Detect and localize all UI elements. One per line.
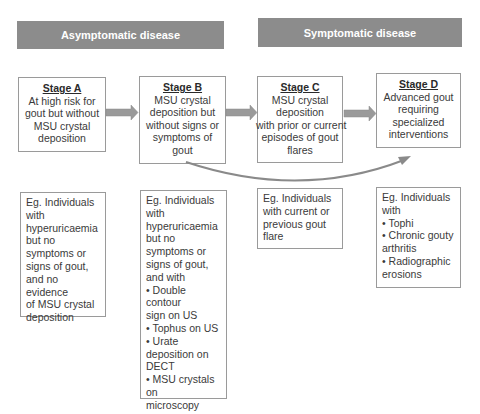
example-line: Eg. Individuals: [146, 194, 222, 207]
example-box-stage-c: Eg. Individuals with current or previous…: [257, 188, 343, 249]
example-box-stage-a: Eg. Individuals with hyperuricaemia but …: [20, 192, 106, 317]
example-line: Eg. Individuals: [263, 192, 338, 205]
example-line: Eg. Individuals: [26, 196, 101, 209]
arrow-right-icon: [344, 106, 376, 121]
example-line: • Tophi: [382, 217, 456, 230]
example-line: • Double contour: [146, 284, 222, 310]
example-line: deposition: [26, 311, 101, 324]
example-line: erosions: [382, 268, 456, 281]
example-line: hyperuricaemia: [26, 222, 101, 235]
example-line: symptoms or: [146, 245, 222, 258]
example-line: and with: [146, 271, 222, 284]
example-line: sign on US: [146, 309, 222, 322]
example-line: signs of gout,: [26, 260, 101, 273]
example-box-stage-d: Eg. Individuals with • Tophi • Chronic g…: [376, 187, 461, 288]
example-line: previous gout: [263, 218, 338, 231]
example-line: • MSU crystals on: [146, 373, 222, 399]
example-line: arthritis: [382, 242, 456, 255]
example-line: of MSU crystal: [26, 298, 101, 311]
curved-arrow-icon: [186, 156, 411, 181]
example-line: signs of gout,: [146, 258, 222, 271]
example-line: with: [26, 209, 101, 222]
example-line: but no: [146, 232, 222, 245]
example-line: with: [146, 207, 222, 220]
example-box-stage-b: Eg. Individuals with hyperuricaemia but …: [140, 190, 227, 399]
example-line: • Radiographic: [382, 255, 456, 268]
example-line: symptoms or: [26, 247, 101, 260]
example-line: microscopy: [146, 399, 222, 412]
example-line: but no: [26, 234, 101, 247]
example-line: and no evidence: [26, 273, 101, 299]
example-line: Eg. Individuals: [382, 191, 456, 204]
example-line: flare: [263, 230, 338, 243]
example-line: • Chronic gouty: [382, 229, 456, 242]
example-line: DECT: [146, 360, 222, 373]
example-line: hyperuricaemia: [146, 220, 222, 233]
example-line: with current or: [263, 205, 338, 218]
arrow-right-icon: [106, 105, 138, 120]
example-line: with: [382, 204, 456, 217]
arrow-right-icon: [226, 105, 257, 120]
example-line: • Tophus on US: [146, 322, 222, 335]
example-line: • Urate: [146, 335, 222, 348]
example-line: deposition on: [146, 348, 222, 361]
